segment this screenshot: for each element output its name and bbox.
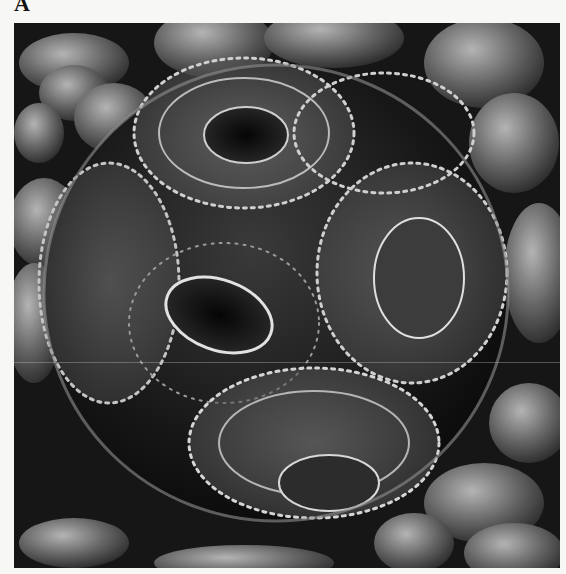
coccosphere-illustration <box>14 23 560 568</box>
panel-label: A <box>14 0 30 17</box>
scan-line-artifact <box>14 362 560 363</box>
micrograph-image <box>14 23 560 568</box>
